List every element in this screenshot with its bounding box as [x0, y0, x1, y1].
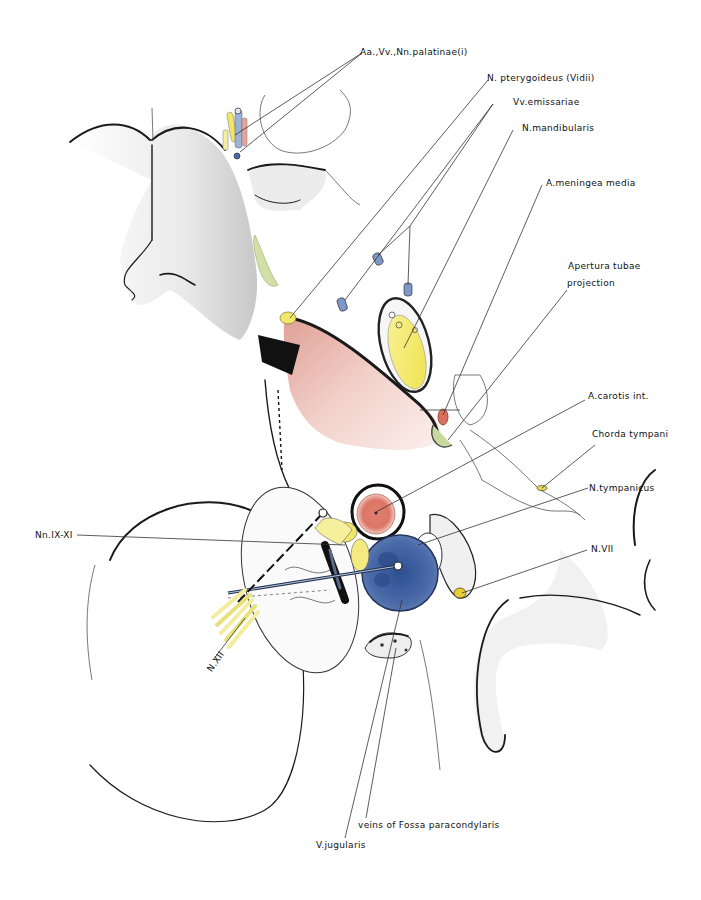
hypoglossal-nerve: [213, 590, 258, 647]
label-n-pterygoideus: N. pterygoideus (Vidii): [487, 73, 595, 83]
label-vv-emissariae: Vv.emissariae: [513, 97, 580, 107]
label-v-jugularis: V.jugularis: [316, 840, 366, 850]
label-palatine-vessels: Aa.,Vv.,Nn.palatinae(i): [360, 47, 468, 57]
label-apertura-tubae: Apertura tubae: [568, 261, 641, 271]
paracondylar-fossa: [365, 633, 411, 658]
label-n-tympanicus: N.tympanicus: [589, 483, 655, 493]
label-n-vii: N.VII: [591, 544, 614, 554]
label-apertura-projection: projection: [567, 278, 615, 288]
label-chorda-tympani: Chorda tympani: [592, 429, 668, 439]
carotid-canal: [352, 485, 404, 539]
label-a-carotis-int: A.carotis int.: [588, 391, 649, 401]
bone-upper-left: [70, 108, 257, 340]
label-a-meningea-media: A.meningea media: [546, 178, 636, 188]
bone-right: [470, 430, 655, 752]
green-tissue: [254, 235, 278, 286]
bone-pterygoid: [248, 90, 360, 211]
label-n-mandibularis: N.mandibularis: [522, 123, 594, 133]
label-nn-ix-xi: Nn.IX-XI: [35, 530, 73, 540]
jugular-bulb: [362, 535, 438, 611]
palatine-vessels: [223, 108, 247, 159]
label-fossa-paracondylaris: veins of Fossa paracondylaris: [358, 820, 500, 830]
anatomy-drawing: [0, 0, 701, 900]
